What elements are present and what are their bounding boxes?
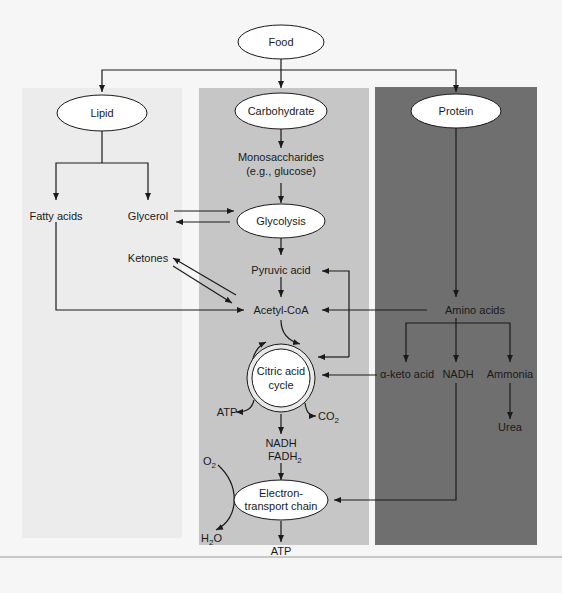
ammonia-label: Ammonia — [487, 368, 534, 380]
electron-transport-chain-node: Electron- transport chain — [234, 480, 328, 520]
glycolysis-node: Glycolysis — [237, 204, 325, 238]
nadh-protein-label: NADH — [442, 368, 473, 380]
urea-label: Urea — [498, 421, 523, 433]
svg-text:FADH2: FADH2 — [268, 450, 302, 465]
monosaccharides-example-label: (e.g., glucose) — [246, 165, 316, 177]
food-node: Food — [238, 25, 324, 59]
pyruvic-acid-label: Pyruvic acid — [251, 264, 310, 276]
svg-text:transport chain: transport chain — [245, 500, 318, 512]
o2-label: O2 — [203, 455, 217, 470]
svg-text:Carbohydrate: Carbohydrate — [248, 105, 315, 117]
svg-text:CO2: CO2 — [318, 410, 340, 425]
citric-acid-cycle-node: Citric acid cycle — [247, 344, 315, 412]
ketones-label: Ketones — [128, 252, 169, 264]
svg-text:cycle: cycle — [268, 379, 293, 391]
lipid-node: Lipid — [57, 95, 147, 131]
atp-final-label: ATP — [271, 545, 292, 557]
glycerol-label: Glycerol — [128, 210, 168, 222]
h2o-label: H2O — [201, 532, 222, 547]
svg-text:Electron-: Electron- — [259, 487, 303, 499]
atp-cycle-label: ATP — [217, 406, 238, 418]
acetyl-coa-label: Acetyl-CoA — [253, 304, 309, 316]
nadh-cycle-label: NADH — [265, 437, 296, 449]
svg-text:H2O: H2O — [201, 532, 222, 547]
svg-text:Citric acid: Citric acid — [257, 365, 305, 377]
svg-text:Protein: Protein — [439, 105, 474, 117]
fadh2-label: FADH2 — [268, 450, 302, 465]
svg-text:Food: Food — [268, 36, 293, 48]
protein-node: Protein — [411, 94, 501, 128]
co2-label: CO2 — [318, 410, 340, 425]
carbohydrate-node: Carbohydrate — [235, 93, 327, 129]
amino-acids-label: Amino acids — [445, 304, 505, 316]
svg-text:Glycolysis: Glycolysis — [256, 215, 306, 227]
svg-text:O2: O2 — [203, 455, 217, 470]
alpha-keto-acid-label: α-keto acid — [380, 368, 434, 380]
svg-text:Lipid: Lipid — [90, 107, 113, 119]
monosaccharides-label: Monosaccharides — [238, 151, 325, 163]
fatty-acids-label: Fatty acids — [29, 210, 83, 222]
metabolism-diagram: Food Lipid Carbohydrate Protein Glycolys… — [0, 0, 562, 593]
